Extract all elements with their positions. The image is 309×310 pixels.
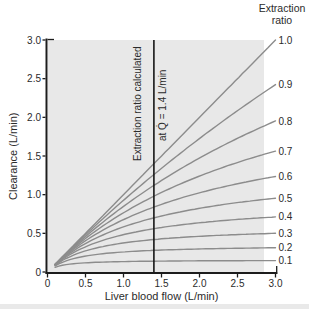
series-label-1.0: 1.0 (279, 35, 293, 46)
series-label-0.2: 0.2 (279, 242, 293, 253)
x-tick-label: 0 (45, 278, 51, 289)
y-tick-label: 0 (35, 267, 41, 278)
series-label-0.7: 0.7 (279, 146, 293, 157)
y-tick-label: 2.0 (27, 112, 41, 123)
x-tick-label: 1.0 (117, 278, 131, 289)
legend-title-line-1: Extraction (256, 2, 308, 14)
legend-title: Extraction ratio (256, 2, 308, 26)
y-tick-label: 0.5 (27, 228, 41, 239)
page-artifact-strip (0, 304, 309, 309)
y-axis-title: Clearance (L/min) (7, 113, 19, 200)
x-tick-label: 2.5 (231, 278, 245, 289)
x-tick-label: 2.0 (193, 278, 207, 289)
y-tick-label: 3.0 (27, 35, 41, 46)
plot-area (48, 40, 264, 272)
y-tick-label: 1.5 (27, 151, 41, 162)
y-tick-label: 2.5 (27, 73, 41, 84)
annotation-line-2: at Q̇ = 1.4 L/min (157, 70, 168, 141)
chart-canvas: 1.00.90.80.70.60.50.40.30.20.100.51.01.5… (0, 0, 309, 310)
x-tick-label: 3.0 (269, 278, 283, 289)
series-label-0.4: 0.4 (279, 211, 293, 222)
series-label-0.8: 0.8 (279, 116, 293, 127)
series-label-0.1: 0.1 (279, 255, 293, 266)
x-tick-label: 1.5 (155, 278, 169, 289)
x-tick-label: 0.5 (79, 278, 93, 289)
y-tick-label: 1.0 (27, 189, 41, 200)
series-label-0.3: 0.3 (279, 228, 293, 239)
legend-title-line-2: ratio (256, 14, 308, 26)
series-label-0.9: 0.9 (279, 79, 293, 90)
clearance-vs-liver-blood-flow-figure: 1.00.90.80.70.60.50.40.30.20.100.51.01.5… (0, 0, 309, 310)
annotation-line-1: Extraction ratio calculated (132, 46, 143, 161)
x-axis-title: Liver blood flow (L/min) (47, 290, 276, 302)
series-label-0.6: 0.6 (279, 171, 293, 182)
series-label-0.5: 0.5 (279, 193, 293, 204)
